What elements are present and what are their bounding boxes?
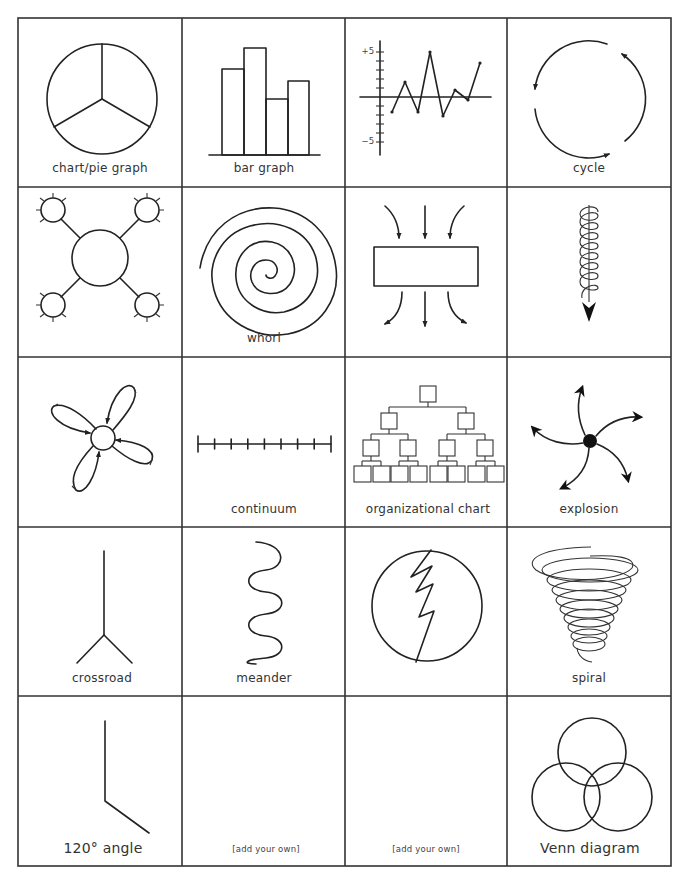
venn-diagram-icon [532, 718, 652, 831]
label-add-your-own-2: [add your own] [392, 844, 460, 854]
axis-label-top: +5 [362, 46, 375, 56]
cycle-arrows-icon [535, 41, 646, 158]
spiral-funnel-icon [532, 547, 638, 662]
web-hub-icon [36, 193, 164, 322]
angle-icon [105, 721, 149, 833]
label-add-your-own-1: [add your own] [232, 844, 300, 854]
petal-loops-icon [52, 386, 153, 492]
organizer-sheet: +5 −5 chart/pie graph bar graph cycle wh… [0, 0, 684, 882]
label-continuum: continuum [231, 502, 297, 516]
label-cycle: cycle [573, 161, 605, 175]
zigzag-circle-icon [372, 550, 482, 662]
label-spiral: spiral [572, 671, 606, 685]
line-graph-icon [360, 41, 491, 155]
label-whorl: whorl [247, 331, 281, 345]
downward-coil-icon [580, 205, 598, 322]
label-crossroad: crossroad [72, 671, 132, 685]
label-bar-graph: bar graph [234, 161, 295, 175]
meander-icon [247, 542, 282, 664]
whorl-spiral-icon [200, 208, 337, 335]
continuum-line-icon [198, 436, 331, 452]
focus-flow-icon [374, 206, 478, 326]
label-explosion: explosion [560, 502, 619, 516]
label-angle: 120° angle [63, 840, 142, 856]
label-meander: meander [236, 671, 291, 685]
label-pie-graph: chart/pie graph [52, 161, 148, 175]
crossroad-icon [77, 551, 132, 663]
bar-graph-icon [209, 48, 320, 155]
org-chart-icon [354, 386, 504, 482]
axis-label-bottom: −5 [362, 136, 375, 146]
pie-chart-icon [47, 44, 157, 154]
explosion-icon [533, 388, 640, 488]
grid-lines [18, 18, 671, 866]
label-venn-diagram: Venn diagram [540, 840, 640, 856]
label-organizational-chart: organizational chart [366, 502, 490, 516]
